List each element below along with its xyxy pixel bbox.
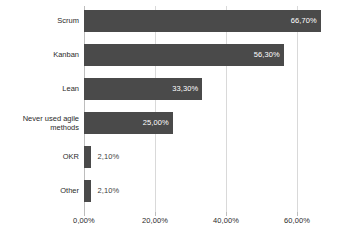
bar-value-label: 56,30% [84,44,284,66]
bar-value-label: 66,70% [84,10,321,32]
x-tick-label: 40,00% [196,216,256,225]
plot-area: 66,70%56,30%33,30%25,00%2,10%2,10% [84,6,332,212]
bar-chart: 66,70%56,30%33,30%25,00%2,10%2,10% Scrum… [0,0,345,248]
bar-value-label: 25,00% [84,112,173,134]
category-label-kanban: Kanban [0,50,79,60]
x-tick-label: 0,00% [54,216,114,225]
bar-row[interactable]: 56,30% [84,44,332,66]
bar-row[interactable]: 25,00% [84,112,332,134]
category-label-never-used-agile: Never used agile methods [0,114,79,133]
bar-row[interactable]: 2,10% [84,146,332,168]
bar-okr[interactable] [84,146,91,168]
category-label-other: Other [0,186,79,196]
category-label-lean: Lean [0,84,79,94]
bar-value-label: 2,10% [97,146,119,168]
bar-other[interactable] [84,180,91,202]
bar-value-label: 33,30% [84,78,202,100]
bar-row[interactable]: 2,10% [84,180,332,202]
x-tick-label: 60,00% [267,216,327,225]
bar-value-label: 2,10% [97,180,119,202]
category-label-okr: OKR [0,152,79,162]
category-label-scrum: Scrum [0,16,79,26]
x-tick-label: 20,00% [125,216,185,225]
bar-row[interactable]: 66,70% [84,10,332,32]
bar-row[interactable]: 33,30% [84,78,332,100]
